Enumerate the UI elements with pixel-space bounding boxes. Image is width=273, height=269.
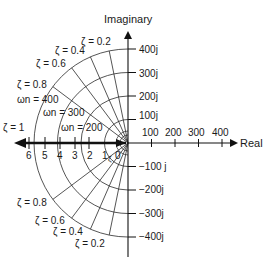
sigma-tick-label-4: 4 xyxy=(57,150,63,161)
sigma-tick-label-2: 2 xyxy=(87,150,93,161)
zeta-label-0.6-upper: ζ = 0.6 xyxy=(36,58,66,70)
omega-label-400: ωn = 400 xyxy=(17,94,59,105)
omega-label-200: ωn = 200 xyxy=(61,122,103,133)
zeta-label-0.4-upper: ζ = 0.4 xyxy=(55,45,85,57)
zeta-label-0.4-lower: ζ = 0.4 xyxy=(53,226,83,238)
imaginary-axis-label: Imaginary xyxy=(104,13,153,25)
real-tick-label-200: 200 xyxy=(165,127,182,138)
zeta-label-0.2-upper: ζ = 0.2 xyxy=(81,36,111,48)
imag-tick-label-neg300: −300j xyxy=(139,208,164,219)
imag-tick-label-100: 100j xyxy=(139,110,158,121)
omega-label-300: ωn = 300 xyxy=(43,107,85,118)
real-axis-label: Real xyxy=(240,137,263,149)
zeta-label-0.8-upper: ζ = 0.8 xyxy=(17,79,47,91)
imag-tick-label-300: 300j xyxy=(139,68,158,79)
sigma-tick-label-0: 0 xyxy=(115,150,121,161)
zeta-ray-0.2-upper xyxy=(109,51,128,143)
zeta-small-label: ζ xyxy=(108,154,112,163)
s-plane-diagram: Imaginary Real 100j 200j 300j 400j −100 … xyxy=(0,0,273,269)
sigma-tick-label-6: 6 xyxy=(26,150,32,161)
imag-tick-label-neg200: −200j xyxy=(139,184,164,195)
zeta-label-1: ζ = 1 xyxy=(3,122,25,134)
sigma-tick-label-3: 3 xyxy=(72,150,78,161)
imag-tick-label-400: 400j xyxy=(139,44,158,55)
sigma-tick-label-5: 5 xyxy=(42,150,48,161)
zeta-label-0.2-lower: ζ = 0.2 xyxy=(75,238,105,250)
zeta-label-0.8-lower: ζ = 0.8 xyxy=(17,197,47,209)
imag-tick-label-neg100: −100 j xyxy=(139,161,167,172)
real-tick-label-300: 300 xyxy=(188,127,205,138)
imag-tick-label-neg400: −400j xyxy=(139,231,164,242)
real-tick-label-100: 100 xyxy=(142,127,159,138)
real-tick-label-400: 400 xyxy=(212,127,229,138)
imag-tick-label-200: 200j xyxy=(139,91,158,102)
sigma-arrow-left xyxy=(14,138,26,148)
